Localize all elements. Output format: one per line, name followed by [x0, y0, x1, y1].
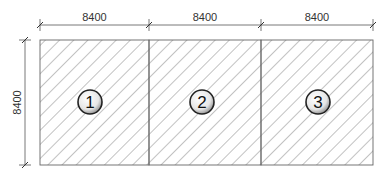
- left-dimension: 8400: [11, 90, 23, 114]
- top-dimension-3: 8400: [305, 11, 329, 23]
- bay-label-2: 2: [190, 90, 214, 114]
- svg-text:1: 1: [85, 93, 94, 112]
- bay-diagram: 8400 8400 8400 8400 1 2 3: [0, 0, 384, 174]
- bay-label-1: 1: [78, 90, 102, 114]
- bay-label-3: 3: [306, 90, 330, 114]
- top-dimension-2: 8400: [193, 11, 217, 23]
- svg-text:3: 3: [313, 93, 322, 112]
- top-dimension-1: 8400: [82, 11, 106, 23]
- svg-text:2: 2: [197, 93, 206, 112]
